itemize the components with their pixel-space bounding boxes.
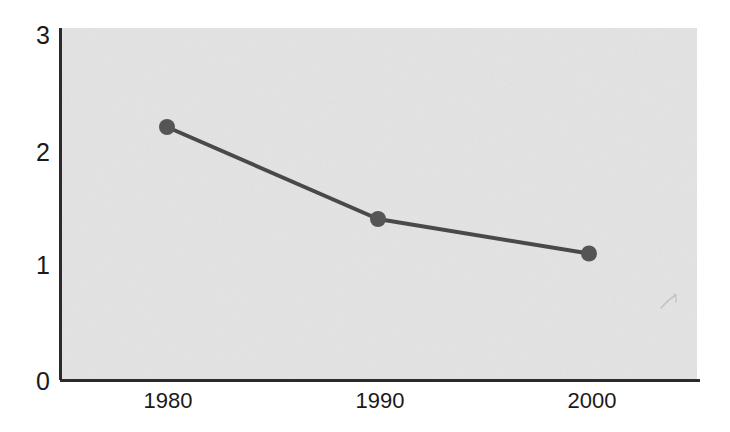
data-point-1980 <box>159 119 175 135</box>
x-tick-label-1980: 1980 <box>144 388 193 413</box>
chart-figure: 3 2 1 0 1980 1990 2000 <box>0 0 730 432</box>
x-tick-label-2000: 2000 <box>568 388 617 413</box>
plot-area-texture <box>60 28 697 380</box>
y-tick-label-2: 2 <box>36 138 50 166</box>
y-tick-label-3: 3 <box>36 21 50 49</box>
y-tick-label-0: 0 <box>36 367 50 395</box>
data-point-1990 <box>370 211 386 227</box>
y-tick-label-1: 1 <box>36 251 50 279</box>
data-point-2000 <box>581 246 597 262</box>
line-chart: 3 2 1 0 1980 1990 2000 <box>0 0 730 432</box>
x-tick-label-1990: 1990 <box>356 388 405 413</box>
